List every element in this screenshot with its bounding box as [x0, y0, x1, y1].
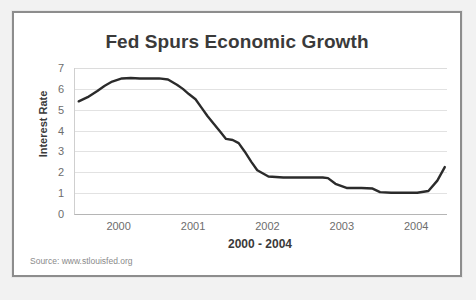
plot-wrapper: Interest Rate 7 6 5 4 3 2 1 0: [14, 13, 464, 279]
x-tick-label: 2004: [404, 220, 428, 232]
y-tick-label: 2: [42, 167, 64, 178]
y-tick-label: 5: [42, 104, 64, 115]
source-note: Source: www.stlouisfed.org: [30, 256, 133, 266]
y-axis-tick-labels: 7 6 5 4 3 2 1 0: [38, 13, 64, 279]
y-tick-label: 0: [42, 209, 64, 220]
x-tick-label: 2001: [181, 220, 205, 232]
y-tick-label: 7: [42, 63, 64, 74]
chart-page: Fed Spurs Economic Growth Interest Rate …: [0, 0, 476, 300]
y-tick-label: 6: [42, 83, 64, 94]
x-axis-tick-labels: 2000 2001 2002 2003 2004: [74, 220, 446, 236]
plot-area: [74, 68, 447, 215]
x-tick-label: 2002: [255, 220, 279, 232]
chart-frame: Fed Spurs Economic Growth Interest Rate …: [12, 11, 462, 277]
y-tick-label: 4: [42, 125, 64, 136]
y-tick-label: 3: [42, 146, 64, 157]
y-tick-label: 1: [42, 188, 64, 199]
series-line-interest-rate: [75, 68, 447, 214]
x-tick-label: 2003: [330, 220, 354, 232]
x-axis-title: 2000 - 2004: [74, 237, 446, 251]
x-tick-label: 2000: [106, 220, 130, 232]
